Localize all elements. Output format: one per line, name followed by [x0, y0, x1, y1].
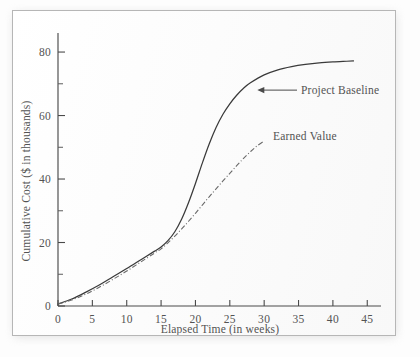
y-tick-label: 0 [45, 300, 51, 312]
x-tick-label: 45 [361, 313, 373, 325]
y-tick-label: 20 [39, 237, 51, 249]
annotation-label-earned-value: Earned Value [273, 130, 337, 142]
chart-page: 020406080 051015202530354045 Cumulative … [0, 0, 420, 357]
y-axis-title: Cumulative Cost ($ in thousands) [20, 100, 33, 261]
x-tick-label: 40 [327, 313, 339, 325]
chart-card: 020406080 051015202530354045 Cumulative … [12, 10, 396, 336]
y-tick-label: 40 [39, 173, 51, 185]
annotation-label-project-baseline: Project Baseline [301, 84, 379, 97]
y-tick-labels: 020406080 [39, 46, 51, 312]
x-tick-label: 0 [55, 313, 61, 325]
chart-text-layer: 020406080 051015202530354045 Cumulative … [13, 11, 396, 336]
x-tick-label: 5 [89, 313, 95, 325]
x-tick-label: 35 [292, 313, 304, 325]
x-axis-title: Elapsed Time (in weeks) [161, 323, 280, 336]
y-tick-label: 60 [39, 110, 51, 122]
x-tick-label: 10 [121, 313, 133, 325]
y-tick-label: 80 [39, 46, 51, 58]
